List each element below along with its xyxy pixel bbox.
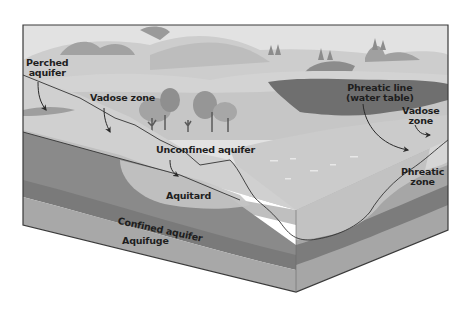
label-vadose-zone-right: Vadose zone: [402, 106, 439, 126]
groundwater-diagram: Perched aquifer Vadose zone Unconfined a…: [0, 0, 461, 312]
label-phreatic-zone: Phreatic zone: [401, 167, 444, 187]
label-aquitard: Aquitard: [166, 191, 211, 201]
label-line: zone: [402, 116, 439, 126]
label-phreatic-line: Phreatic line (water table): [346, 83, 414, 103]
label-perched-aquifer: Perched aquifer: [26, 58, 68, 78]
label-line: (water table): [346, 93, 414, 103]
label-line: aquifer: [26, 68, 68, 78]
label-line: zone: [401, 177, 444, 187]
label-vadose-zone-left: Vadose zone: [90, 93, 155, 103]
label-aquifuge: Aquifuge: [122, 236, 169, 246]
diagram-canvas: [0, 0, 461, 312]
label-unconfined-aquifer: Unconfined aquifer: [156, 145, 255, 155]
